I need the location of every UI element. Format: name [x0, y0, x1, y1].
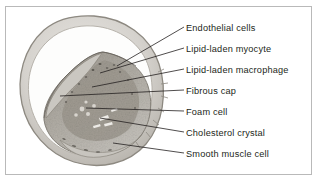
label-lipid-laden-macrophage: Lipid-laden macrophage — [186, 65, 289, 75]
label-endothelial-cells: Endothelial cells — [186, 23, 256, 33]
specimen-body — [20, 16, 168, 166]
figure-panel: Endothelial cells Lipid-laden myocyte Li… — [0, 0, 319, 182]
label-list: Endothelial cells Lipid-laden myocyte Li… — [186, 0, 316, 182]
label-foam-cell: Foam cell — [186, 107, 227, 117]
artery-cross-section-image — [8, 10, 176, 170]
label-lipid-laden-myocyte: Lipid-laden myocyte — [186, 44, 271, 54]
label-cholesterol-crystal: Cholesterol crystal — [186, 128, 265, 138]
label-smooth-muscle-cell: Smooth muscle cell — [186, 149, 269, 159]
label-fibrous-cap: Fibrous cap — [186, 86, 236, 96]
